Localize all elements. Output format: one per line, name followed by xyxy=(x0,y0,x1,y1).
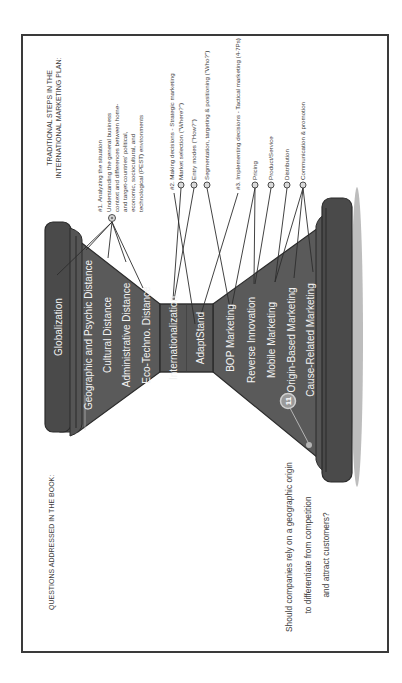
funnel-item-geographic: Geographic and Psychic Distance xyxy=(83,260,94,411)
funnel-item-cause-related: Cause-Related Marketing xyxy=(305,283,316,396)
step3-title: #3. Implementing decisions - Tactical ma… xyxy=(234,38,241,190)
funnel-item-mobile: Mobile Marketing xyxy=(266,302,277,378)
step1-line1: Understanding the general business xyxy=(105,113,112,212)
funnel-item-cultural: Cultural Distance xyxy=(102,296,113,373)
entry-modes-node xyxy=(191,182,197,188)
step2-item-entry-modes: Entry modes ("How?") xyxy=(190,119,197,180)
funnel-item-origin-based: Origin-Based Marketing xyxy=(286,287,297,392)
funnel-item-reverse-innovation: Reverse Innovation xyxy=(246,297,257,383)
plan-heading-line2: INTERNATIONAL MARKETING PLAN: xyxy=(55,57,62,178)
distribution-node xyxy=(284,182,290,188)
segmentation-node xyxy=(204,182,210,188)
step1-line5: technological (PEST) environments xyxy=(137,115,144,212)
question-line3: and attract customers? xyxy=(321,512,331,598)
question-line1: Should companies rely on a geographic or… xyxy=(284,462,294,632)
step3-item-communication: Communication & promotion xyxy=(299,101,306,180)
plan-heading-line1: TRADITIONAL STEPS IN THE xyxy=(46,70,53,166)
step2-title: #2. Making decisions - Strategic marketi… xyxy=(168,73,175,190)
questions-heading: QUESTIONS ADDRESSED IN THE BOOK: xyxy=(48,475,56,610)
funnel-item-eco-techno: Eco-Techno. Distance xyxy=(141,286,152,384)
step1-line3: and target-countries' political, xyxy=(121,131,128,212)
step3-item-product: Product/Service xyxy=(267,136,274,180)
step1-line4: economic, sociocultural, and xyxy=(129,133,136,212)
middle-item-adaptstand: AdaptStand xyxy=(195,312,206,364)
chapter-badge-number: 11 xyxy=(284,396,293,405)
middle-item-internationalization: Internationalization xyxy=(168,296,179,380)
hourglass-diagram: QUESTIONS ADDRESSED IN THE BOOK: TRADITI… xyxy=(0,0,402,683)
question-line2: to differentiate from competition xyxy=(303,496,313,613)
step1-title: #1. Analyzing the situation xyxy=(96,140,103,212)
funnel-item-administrative: Administrative Distance xyxy=(121,282,132,387)
funnel-item-bop: BOP Marketing xyxy=(225,304,236,372)
pricing-node xyxy=(252,182,258,188)
product-node xyxy=(268,182,274,188)
step3-item-pricing: Pricing xyxy=(251,161,258,180)
badge-pointer-dot xyxy=(306,442,312,448)
step3-item-distribution: Distribution xyxy=(283,148,290,180)
step1-line2: context and differences between home- xyxy=(113,104,120,212)
communication-node xyxy=(300,182,306,188)
step2-item-market-selection: Market selection ("Where?") xyxy=(177,103,184,180)
globalization-label: Globalization xyxy=(53,298,64,356)
base-shadow xyxy=(351,187,363,487)
step2-item-segmentation: Segmentation, targeting & positioning ("… xyxy=(203,51,210,180)
market-selection-node xyxy=(178,182,184,188)
